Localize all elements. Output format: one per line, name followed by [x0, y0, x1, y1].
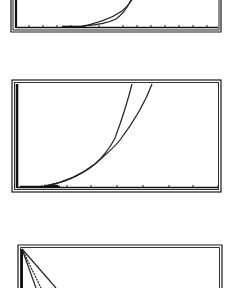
plot-bottom-outer-frame: [18, 245, 222, 288]
plot-top-curve-b: [84, 0, 131, 26]
plot-middle: [12, 80, 221, 192]
plot-middle-inner-frame: [15, 83, 219, 190]
plot-bottom-line-2: [22, 249, 41, 288]
plot-bottom-line-1: [22, 249, 36, 288]
calculator-plots: [0, 0, 229, 288]
plot-middle-outer-frame: [12, 80, 221, 192]
plot-middle-curve-steep: [45, 84, 132, 186]
plot-top: [11, 0, 221, 32]
plot-middle-curve-gentle: [45, 84, 152, 186]
plot-bottom-line-3: [22, 249, 56, 288]
plot-bottom: [18, 245, 222, 288]
